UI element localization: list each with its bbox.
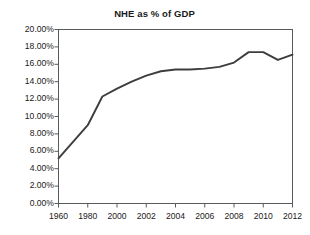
- chart-container: NHE as % of GDP 20.00%18.00%16.00%14.00%…: [0, 0, 309, 235]
- x-axis-labels: 196019802000200220042006200820102012: [0, 0, 309, 235]
- x-axis-tick-label: 2012: [276, 211, 310, 221]
